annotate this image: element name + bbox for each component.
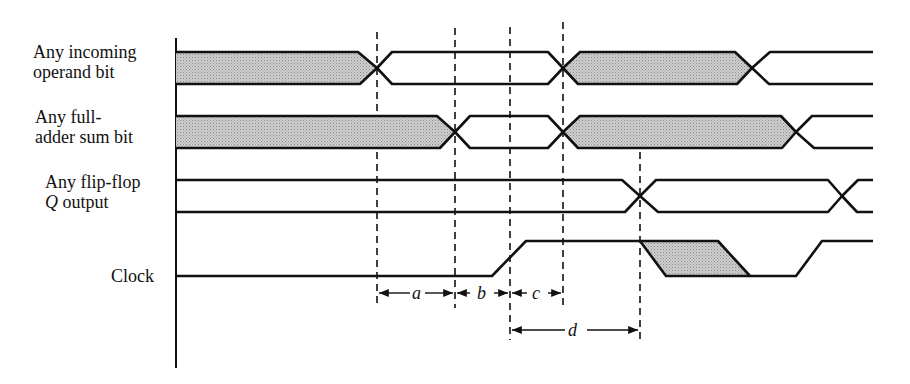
signal-flipflop — [176, 180, 873, 212]
signal-operand — [176, 52, 873, 84]
interval-d-label: d — [568, 320, 578, 340]
sum-invalid-2 — [563, 116, 796, 148]
interval-a-label: a — [412, 283, 421, 303]
operand-invalid-2 — [563, 52, 752, 84]
sum-invalid-1 — [176, 116, 455, 148]
timing-diagram: a b c d — [0, 0, 910, 384]
interval-b-label: b — [477, 283, 486, 303]
signal-clock — [176, 241, 873, 276]
signal-sum — [176, 116, 873, 148]
interval-c-label: c — [532, 283, 540, 303]
operand-invalid-1 — [176, 52, 377, 84]
